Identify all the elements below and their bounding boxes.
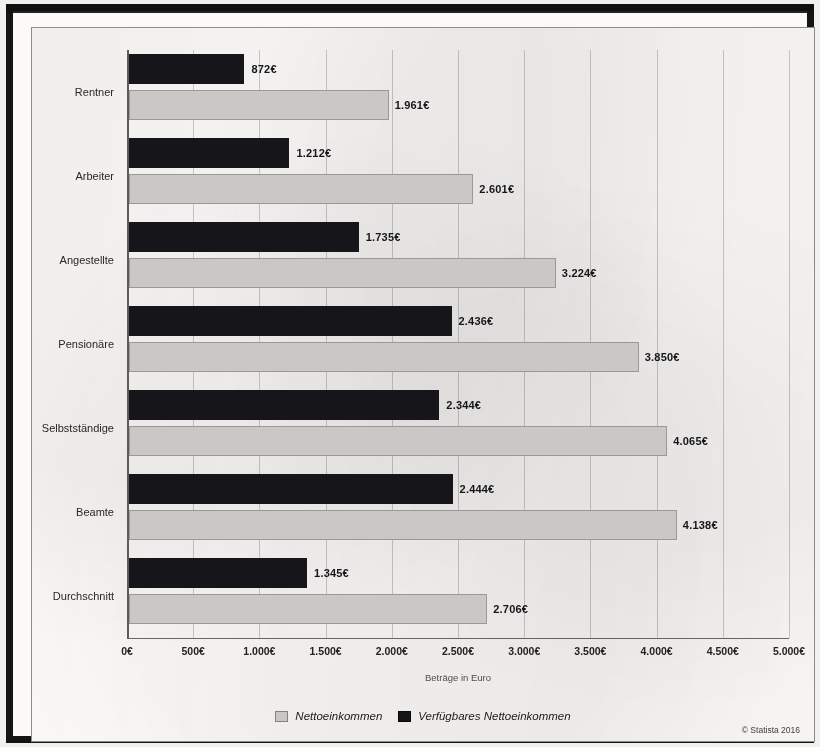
- x-axis-tick-label: 1.500€: [310, 645, 342, 657]
- bar-value-label: 3.224€: [562, 267, 597, 279]
- bar-value-label: 2.344€: [446, 399, 481, 411]
- category-label: Angestellte: [0, 254, 114, 266]
- bar-group: Pensionäre2.436€3.850€: [127, 302, 789, 386]
- legend-item[interactable]: Verfügbares Nettoeinkommen: [398, 710, 570, 722]
- plot-area: Rentner872€1.961€Arbeiter1.212€2.601€Ang…: [127, 50, 789, 638]
- x-axis-title: Beträge in Euro: [127, 672, 789, 683]
- bar-group: Durchschnitt1.345€2.706€: [127, 554, 789, 638]
- x-axis-tick-label: 0€: [121, 645, 133, 657]
- bar-light[interactable]: 4.065€: [129, 426, 667, 456]
- bar-group: Rentner872€1.961€: [127, 50, 789, 134]
- bar-light[interactable]: 2.706€: [129, 594, 487, 624]
- gridline: [789, 50, 790, 638]
- x-axis-tick-label: 4.500€: [707, 645, 739, 657]
- bar-light[interactable]: 4.138€: [129, 510, 677, 540]
- bar-value-label: 872€: [251, 63, 276, 75]
- bar-value-label: 4.065€: [673, 435, 708, 447]
- x-axis-tick-label: 5.000€: [773, 645, 805, 657]
- x-axis-tick-label: 2.500€: [442, 645, 474, 657]
- x-axis-tick-label: 4.000€: [641, 645, 673, 657]
- bar-dark[interactable]: 1.735€: [129, 222, 359, 252]
- bar-dark[interactable]: 2.344€: [129, 390, 439, 420]
- bar-light[interactable]: 3.850€: [129, 342, 639, 372]
- category-label: Selbstständige: [0, 422, 114, 434]
- category-label: Beamte: [0, 506, 114, 518]
- category-label: Durchschnitt: [0, 590, 114, 602]
- bar-value-label: 3.850€: [645, 351, 680, 363]
- chart-page: Rentner872€1.961€Arbeiter1.212€2.601€Ang…: [0, 0, 820, 747]
- chart-legend: NettoeinkommenVerfügbares Nettoeinkommen: [32, 710, 814, 722]
- bar-value-label: 2.436€: [459, 315, 494, 327]
- legend-swatch-light: [275, 711, 288, 722]
- bar-value-label: 2.444€: [460, 483, 495, 495]
- x-axis: 0€500€1.000€1.500€2.000€2.500€3.000€3.50…: [127, 638, 789, 662]
- x-axis-tick-label: 2.000€: [376, 645, 408, 657]
- bar-dark[interactable]: 2.444€: [129, 474, 453, 504]
- bar-value-label: 2.601€: [479, 183, 514, 195]
- bar-value-label: 4.138€: [683, 519, 718, 531]
- y-axis-line: [127, 50, 129, 638]
- x-axis-tick-label: 3.000€: [508, 645, 540, 657]
- legend-label: Nettoeinkommen: [295, 710, 382, 722]
- bar-dark[interactable]: 872€: [129, 54, 244, 84]
- x-axis-tick-label: 3.500€: [574, 645, 606, 657]
- chart-container: Rentner872€1.961€Arbeiter1.212€2.601€Ang…: [31, 27, 815, 742]
- x-axis-tick-label: 500€: [182, 645, 205, 657]
- bar-light[interactable]: 2.601€: [129, 174, 473, 204]
- x-axis-tick-label: 1.000€: [243, 645, 275, 657]
- bar-light[interactable]: 1.961€: [129, 90, 389, 120]
- category-label: Arbeiter: [0, 170, 114, 182]
- copyright-notice: © Statista 2016: [742, 725, 800, 735]
- bar-value-label: 1.961€: [395, 99, 430, 111]
- bar-value-label: 1.212€: [296, 147, 331, 159]
- bar-light[interactable]: 3.224€: [129, 258, 556, 288]
- bar-value-label: 1.345€: [314, 567, 349, 579]
- bar-dark[interactable]: 2.436€: [129, 306, 452, 336]
- bar-group: Selbstständige2.344€4.065€: [127, 386, 789, 470]
- bar-group: Angestellte1.735€3.224€: [127, 218, 789, 302]
- bar-dark[interactable]: 1.345€: [129, 558, 307, 588]
- bar-value-label: 2.706€: [493, 603, 528, 615]
- scan-frame-border: Rentner872€1.961€Arbeiter1.212€2.601€Ang…: [6, 4, 814, 743]
- legend-label: Verfügbares Nettoeinkommen: [418, 710, 570, 722]
- bar-dark[interactable]: 1.212€: [129, 138, 289, 168]
- category-label: Pensionäre: [0, 338, 114, 350]
- bar-group: Arbeiter1.212€2.601€: [127, 134, 789, 218]
- legend-item[interactable]: Nettoeinkommen: [275, 710, 382, 722]
- bar-group: Beamte2.444€4.138€: [127, 470, 789, 554]
- category-label: Rentner: [0, 86, 114, 98]
- legend-swatch-dark: [398, 711, 411, 722]
- bar-value-label: 1.735€: [366, 231, 401, 243]
